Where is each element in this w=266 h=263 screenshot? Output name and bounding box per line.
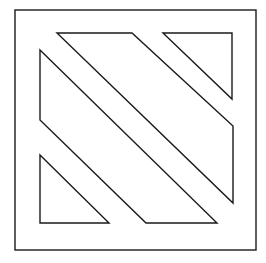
lower-diagonal-band (40, 50, 217, 223)
diagram-canvas (0, 0, 266, 263)
top-right-triangle (163, 33, 232, 99)
bottom-left-triangle (40, 155, 109, 223)
upper-diagonal-band (57, 33, 233, 203)
